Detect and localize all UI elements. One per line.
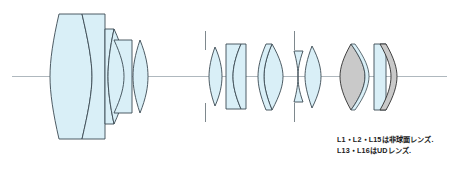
lens-element-L15-aspherical <box>374 44 386 110</box>
rear-group <box>340 44 397 110</box>
lens-element-L6 <box>209 47 222 106</box>
legend-line-aspherical: L1・L2・L15は非球面レンズ. <box>337 135 434 146</box>
lens-element-L12 <box>305 46 321 108</box>
front-group <box>50 14 148 139</box>
legend-line-ud: L13・L16はUDレンズ. <box>337 146 434 157</box>
lens-element-L5b <box>133 40 148 113</box>
legend-caption: L1・L2・L15は非球面レンズ. L13・L16はUDレンズ. <box>337 135 434 156</box>
lens-diagram: L1・L2・L15は非球面レンズ. L13・L16はUDレンズ. <box>0 0 456 175</box>
